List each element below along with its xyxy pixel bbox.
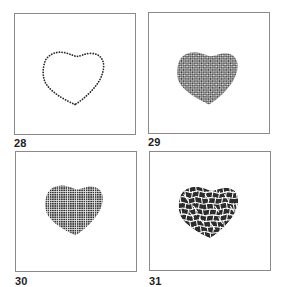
figure-panel-28 bbox=[14, 13, 136, 135]
figure-panel-31 bbox=[149, 151, 271, 271]
heart-grid-fill-icon bbox=[16, 152, 136, 271]
figure-label-28: 28 bbox=[14, 138, 27, 149]
figure-label-29: 29 bbox=[148, 137, 161, 148]
figure-label-31: 31 bbox=[149, 276, 162, 287]
figure-panel-30 bbox=[15, 151, 137, 272]
figure-label-30: 30 bbox=[15, 276, 28, 287]
heart-dotted-outline-icon bbox=[15, 14, 135, 134]
figure-panel-29 bbox=[148, 12, 270, 134]
heart-checker-fill-icon bbox=[149, 13, 269, 133]
heart-cobblestone-fill-icon bbox=[150, 152, 270, 270]
